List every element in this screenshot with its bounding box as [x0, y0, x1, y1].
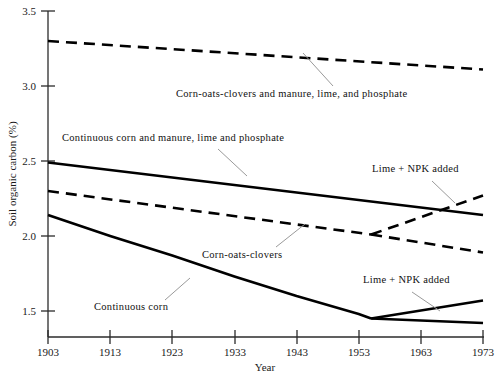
series-line-2: [48, 191, 371, 235]
chart-svg: 3.5 3.0 2.5 2.0 1.5 1903 1913 1923 1933 …: [0, 0, 496, 373]
y-axis-title: Soil organic carbon (%): [6, 121, 19, 227]
x-axis-title: Year: [255, 361, 276, 373]
x-tick-label-1923: 1923: [161, 346, 184, 358]
annotation-lime-npk-added-upper: Lime + NPK added: [372, 163, 459, 174]
x-tick-labels: 1903 1913 1923 1933 1943 1953 1963 1973: [37, 346, 495, 358]
leader-corn-oats-clovers: [276, 224, 305, 247]
soil-organic-carbon-chart: 3.5 3.0 2.5 2.0 1.5 1903 1913 1923 1933 …: [0, 0, 496, 373]
y-tick-label-2.5: 2.5: [22, 155, 36, 167]
annotation-lime-npk-added-lower: Lime + NPK added: [363, 274, 450, 285]
leader-lime-npk-upper: [432, 181, 455, 203]
x-tick-label-1963: 1963: [410, 346, 433, 358]
x-tick-label-1953: 1953: [348, 346, 371, 358]
x-tick-label-1913: 1913: [99, 346, 122, 358]
annotation-corn-oats-clovers-manure-lime-phosphate: Corn-oats-clovers and manure, lime, and …: [176, 88, 407, 99]
x-tick-label-1973: 1973: [472, 346, 495, 358]
series-line-3: [371, 196, 483, 235]
y-tick-label-3.5: 3.5: [22, 5, 36, 17]
series-line-0: [48, 41, 483, 70]
x-tick-label-1933: 1933: [224, 346, 247, 358]
annotation-corn-oats-clovers: Corn-oats-clovers: [202, 249, 282, 260]
y-tick-label-2.0: 2.0: [22, 230, 36, 242]
annotation-continuous-corn: Continuous corn: [94, 301, 169, 312]
series-line-7: [371, 319, 483, 324]
series-line-6: [371, 301, 483, 319]
y-tick-label-1.5: 1.5: [22, 305, 36, 317]
leader-continuous-corn: [165, 278, 190, 300]
x-tick-label-1943: 1943: [286, 346, 309, 358]
x-tick-label-1903: 1903: [37, 346, 60, 358]
leader-continuous-corn-manure: [218, 149, 247, 176]
axes: [41, 11, 484, 344]
annotation-continuous-corn-manure-lime-phosphate: Continuous corn and manure, lime and pho…: [62, 132, 284, 143]
leader-lime-npk-lower: [412, 292, 440, 311]
y-tick-labels: 3.5 3.0 2.5 2.0 1.5: [22, 5, 36, 317]
series-line-4: [371, 235, 483, 253]
y-tick-label-3.0: 3.0: [22, 80, 36, 92]
